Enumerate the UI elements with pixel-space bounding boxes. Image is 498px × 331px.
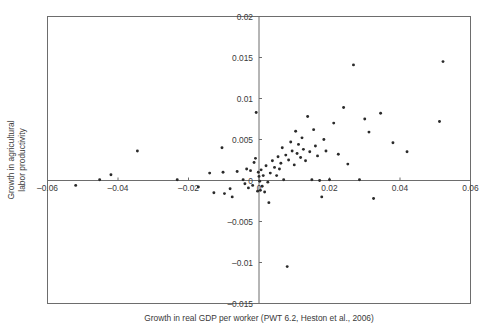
scatter-point bbox=[263, 191, 266, 194]
scatter-point bbox=[236, 170, 239, 173]
y-axis-title-line1: Growth in agricultural bbox=[6, 120, 16, 199]
scatter-point bbox=[223, 192, 226, 195]
scatter-point bbox=[260, 168, 263, 171]
zero-axis-lines bbox=[48, 17, 471, 304]
scatter-point bbox=[275, 174, 278, 177]
x-tick-label: –0.02 bbox=[178, 183, 199, 193]
y-tick-label: 0.02 bbox=[237, 12, 254, 22]
scatter-point bbox=[304, 159, 307, 162]
scatter-point bbox=[212, 191, 215, 194]
scatter-point bbox=[208, 172, 211, 175]
scatter-point bbox=[279, 162, 282, 165]
y-tick-label: –0.005 bbox=[227, 217, 253, 227]
x-tick-label: 0.06 bbox=[462, 183, 479, 193]
scatter-point bbox=[332, 122, 335, 125]
scatter-point bbox=[322, 138, 325, 141]
scatter-point bbox=[98, 178, 101, 181]
x-tick-label: –0.06 bbox=[37, 183, 58, 193]
scatter-point bbox=[320, 195, 323, 198]
scatter-point bbox=[229, 187, 232, 190]
x-tick-label: 0.02 bbox=[321, 183, 338, 193]
scatter-point bbox=[406, 150, 409, 153]
scatter-point bbox=[176, 178, 179, 181]
scatter-point bbox=[255, 111, 258, 114]
scatter-point bbox=[284, 154, 287, 157]
scatter-point bbox=[312, 128, 315, 131]
scatter-point bbox=[328, 178, 331, 181]
scatter-point bbox=[281, 146, 284, 149]
scatter-point bbox=[337, 153, 340, 156]
y-tick-label: 0.005 bbox=[232, 135, 253, 145]
scatter-point bbox=[243, 182, 246, 185]
scatter-point bbox=[287, 159, 290, 162]
scatter-point bbox=[253, 161, 256, 164]
scatter-point bbox=[273, 166, 276, 169]
scatter-point bbox=[136, 150, 139, 153]
scatter-point bbox=[358, 178, 361, 181]
x-tick-label: –0.04 bbox=[108, 183, 129, 193]
scatter-point bbox=[251, 184, 254, 187]
scatter-point bbox=[438, 120, 441, 123]
scatter-point bbox=[296, 152, 299, 155]
scatter-point bbox=[282, 178, 285, 181]
scatter-point bbox=[277, 155, 280, 158]
scatter-point bbox=[245, 168, 248, 171]
scatter-point bbox=[197, 186, 200, 189]
scatter-point bbox=[258, 175, 261, 178]
scatter-point bbox=[294, 130, 297, 133]
y-tick-label: 0.015 bbox=[232, 53, 253, 63]
scatter-point bbox=[262, 174, 265, 177]
scatter-point bbox=[261, 185, 264, 188]
scatter-point bbox=[267, 201, 270, 204]
scatter-point bbox=[379, 112, 382, 115]
scatter-point bbox=[110, 173, 113, 176]
scatter-point bbox=[291, 150, 294, 153]
scatter-point bbox=[310, 178, 313, 181]
scatter-point bbox=[316, 154, 319, 157]
scatter-point bbox=[342, 106, 345, 109]
scatter-point bbox=[222, 171, 225, 174]
scatter-point bbox=[271, 159, 274, 162]
scatter-point bbox=[299, 156, 302, 159]
y-tick-label: 0.01 bbox=[237, 94, 254, 104]
scatter-point bbox=[242, 178, 245, 181]
scatter-point bbox=[259, 189, 262, 192]
scatter-point bbox=[74, 184, 77, 187]
scatter-point bbox=[231, 195, 234, 198]
scatter-point bbox=[318, 179, 321, 182]
scatter-point bbox=[346, 163, 349, 166]
scatter-point bbox=[297, 143, 300, 146]
scatter-point bbox=[286, 265, 289, 268]
scatter-point bbox=[442, 60, 445, 63]
scatter-point bbox=[249, 169, 252, 172]
y-axis-tick-labels: –0.015–0.01–0.00500.0050.010.0150.02 bbox=[227, 12, 253, 309]
y-axis-title-line2: labor productivity bbox=[17, 128, 27, 192]
scatter-point bbox=[308, 150, 311, 153]
scatter-point bbox=[314, 145, 317, 148]
scatter-point bbox=[306, 115, 309, 118]
scatter-point bbox=[269, 172, 272, 175]
scatter-point bbox=[254, 157, 257, 160]
scatter-point bbox=[289, 141, 292, 144]
scatter-point bbox=[392, 141, 395, 144]
scatter-point bbox=[325, 150, 328, 153]
scatter-point bbox=[257, 171, 260, 174]
x-axis-title: Growth in real GDP per worker (PWT 6.2, … bbox=[144, 313, 374, 323]
scatter-point bbox=[372, 197, 375, 200]
chart-canvas: –0.06–0.04–0.0200.020.040.06 –0.015–0.01… bbox=[0, 0, 498, 331]
scatter-point bbox=[363, 118, 366, 121]
scatter-point bbox=[301, 136, 304, 139]
scatter-point bbox=[278, 168, 281, 171]
scatter-point bbox=[247, 186, 250, 189]
scatter-point bbox=[258, 180, 261, 183]
scatter-point bbox=[221, 146, 224, 149]
scatter-point bbox=[302, 148, 305, 151]
y-tick-label: –0.01 bbox=[232, 258, 253, 268]
scatter-point bbox=[265, 164, 268, 167]
x-tick-label: 0.04 bbox=[392, 183, 409, 193]
scatter-point bbox=[352, 63, 355, 66]
scatter-point bbox=[256, 190, 259, 193]
scatter-point bbox=[266, 181, 269, 184]
scatter-chart-figure: –0.06–0.04–0.0200.020.040.06 –0.015–0.01… bbox=[0, 0, 498, 331]
scatter-point bbox=[368, 131, 371, 134]
